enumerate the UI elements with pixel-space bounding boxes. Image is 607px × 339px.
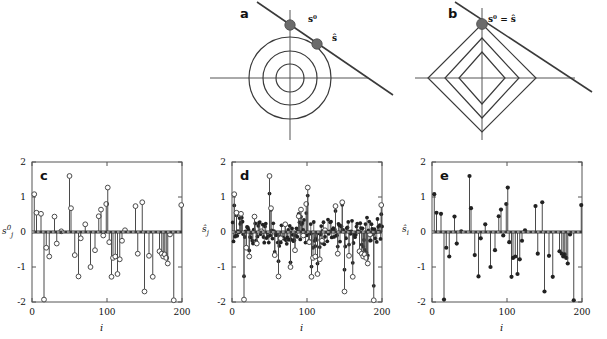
data-point-open: [254, 241, 259, 246]
panel-e-ytick-1: 1: [404, 192, 426, 202]
data-point-open: [278, 236, 283, 241]
data-point-open: [147, 253, 152, 258]
data-point-filled: [507, 240, 511, 244]
data-point-open: [78, 236, 83, 241]
data-point-filled: [469, 206, 473, 210]
panel-e-ytick-m2: -2: [404, 297, 426, 307]
data-point-open: [305, 185, 310, 190]
data-point-filled: [515, 272, 519, 276]
data-point-filled: [432, 192, 436, 196]
data-point-open: [379, 203, 384, 208]
panel-c-ytick-0: 0: [4, 227, 26, 237]
data-point-filled: [499, 208, 503, 212]
data-point-open: [52, 214, 57, 219]
data-point-open: [267, 174, 272, 179]
panel-b-l1-geometry: b s⁰ = ŝ: [400, 0, 607, 142]
data-point-filled: [488, 265, 492, 269]
panel-c-xtick-0: 0: [19, 307, 45, 317]
data-point-open: [42, 297, 47, 302]
panel-a-l2-geometry: a s⁰ ŝ: [180, 0, 400, 142]
data-point-open: [365, 261, 370, 266]
data-point-filled: [352, 241, 356, 245]
data-point-open: [115, 272, 120, 277]
data-point-filled: [340, 225, 344, 229]
data-point-open: [171, 298, 176, 303]
panel-e-plot: [432, 162, 582, 302]
data-point-open: [272, 253, 277, 258]
data-point-filled: [235, 234, 239, 238]
panel-a-point-s0: [285, 20, 295, 30]
data-point-open: [371, 298, 376, 303]
data-point-open: [113, 254, 118, 259]
panel-a-point-shat: [312, 39, 322, 49]
data-point-filled: [506, 185, 510, 189]
data-point-open: [99, 207, 104, 212]
data-point-filled: [447, 254, 451, 258]
data-point-filled: [376, 217, 380, 221]
data-point-filled: [501, 233, 505, 237]
data-point-filled: [271, 237, 275, 241]
panel-e-xtick-200: 200: [569, 307, 595, 317]
data-point-open: [88, 265, 93, 270]
data-point-filled: [551, 275, 555, 279]
data-point-open: [117, 257, 122, 262]
panel-d-dense-l2-estimate: d ŝj i 2 1 0 -1 -2 0 100 200: [200, 150, 405, 339]
data-point-filled: [547, 254, 551, 258]
data-point-open: [320, 238, 325, 243]
data-point-filled: [312, 220, 316, 224]
data-point-filled: [346, 220, 350, 224]
data-point-open: [247, 254, 252, 259]
panel-d-xtick-0: 0: [219, 307, 245, 317]
data-point-filled: [540, 200, 544, 204]
data-point-filled: [323, 235, 327, 239]
data-point-open: [44, 245, 49, 250]
panel-a-svg: [180, 0, 400, 142]
panel-e-letter: e: [440, 168, 449, 183]
data-point-open: [32, 192, 37, 197]
panel-d-xtick-100: 100: [294, 307, 320, 317]
data-point-open: [252, 214, 257, 219]
data-point-filled: [493, 248, 497, 252]
panel-a-constraint-line: [257, 2, 393, 95]
data-point-open: [135, 251, 140, 256]
data-point-open: [120, 238, 125, 243]
data-point-filled: [467, 174, 471, 178]
panel-c-xtick-200: 200: [169, 307, 195, 317]
data-point-open: [76, 274, 81, 279]
data-point-open: [239, 211, 244, 216]
panel-d-ytick-2: 2: [204, 157, 226, 167]
data-point-open: [283, 222, 288, 227]
data-point-filled: [292, 238, 296, 242]
panel-c-ytick-1: 1: [4, 192, 26, 202]
data-point-open: [133, 204, 138, 209]
panel-c-xtick-100: 100: [94, 307, 120, 317]
data-point-open: [276, 274, 281, 279]
data-point-open: [93, 248, 98, 253]
data-point-filled: [350, 219, 354, 223]
panel-a-label-s0: s⁰: [308, 14, 317, 24]
panel-d-ytick-m1: -1: [204, 262, 226, 272]
data-point-open: [105, 185, 110, 190]
data-point-filled: [439, 212, 443, 216]
data-point-open: [39, 211, 44, 216]
panel-c-ytick-2: 2: [4, 157, 26, 167]
data-point-filled: [473, 253, 477, 257]
data-point-open: [101, 233, 106, 238]
data-point-filled: [380, 225, 384, 229]
data-point-open: [301, 233, 306, 238]
panel-a-letter: a: [240, 6, 249, 21]
data-point-filled: [579, 203, 583, 207]
data-point-filled: [319, 224, 323, 228]
data-point-open: [293, 248, 298, 253]
data-point-filled: [346, 226, 350, 230]
data-point-filled: [365, 216, 369, 220]
data-point-open: [296, 214, 301, 219]
panel-b-label-equality: s⁰ = ŝ: [488, 14, 516, 24]
data-point-open: [288, 265, 293, 270]
data-point-open: [142, 289, 147, 294]
data-point-open: [244, 245, 249, 250]
panel-e-ytick-0: 0: [404, 227, 426, 237]
data-point-filled: [518, 257, 522, 261]
data-point-filled: [513, 254, 517, 258]
data-point-filled: [262, 241, 266, 245]
